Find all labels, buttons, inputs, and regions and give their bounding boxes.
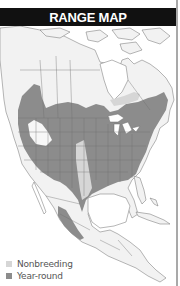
legend-label-year-round: Year-round (17, 271, 63, 281)
legend-label-nonbreeding: Nonbreeding (17, 259, 73, 269)
legend-item-nonbreeding: Nonbreeding (6, 258, 73, 269)
range-map-header: RANGE MAP (0, 8, 176, 26)
range-map (0, 0, 176, 286)
year-round-swatch-icon (6, 273, 12, 279)
map-legend: Nonbreeding Year-round (6, 258, 73, 282)
range-map-title: RANGE MAP (49, 10, 127, 25)
gulf-of-mexico (88, 194, 130, 228)
nonbreeding-swatch-icon (6, 261, 12, 267)
range-map-panel: RANGE MAP Nonbreeding Year-round (0, 0, 178, 286)
legend-item-year-round: Year-round (6, 270, 73, 281)
